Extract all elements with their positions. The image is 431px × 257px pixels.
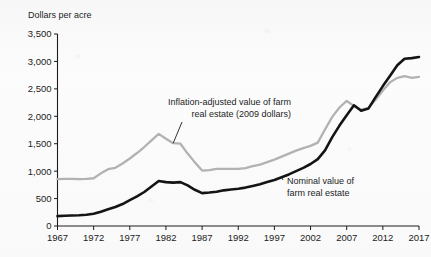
x-axis-ticks	[58, 226, 420, 230]
y-tick-label: 2,500	[28, 83, 52, 94]
x-tick-label: 2017	[408, 232, 429, 243]
annotation-nominal-line1: Nominal value of	[287, 176, 355, 186]
x-tick-label: 1992	[228, 232, 249, 243]
y-tick-label: 1,500	[28, 138, 52, 149]
x-tick-label: 1997	[264, 232, 285, 243]
x-tick-label: 1972	[83, 232, 104, 243]
y-tick-label: 1,000	[28, 166, 52, 177]
x-tick-label: 2007	[336, 232, 357, 243]
x-tick-label: 1967	[47, 232, 68, 243]
chart-canvas: Dollars per acre 05001,0001,5002,0002,50…	[0, 0, 431, 257]
series-line-inflation-adjusted	[58, 76, 420, 179]
series-line-nominal	[58, 57, 420, 216]
x-tick-label: 1987	[192, 232, 213, 243]
y-tick-label: 3,000	[28, 56, 52, 67]
x-axis-tick-labels: 1967197219771982198719921997200220072012…	[47, 232, 430, 243]
annotation-real-line1: Inflation-adjusted value of farm	[168, 97, 291, 107]
y-tick-label: 500	[36, 193, 52, 204]
x-tick-label: 1977	[119, 232, 140, 243]
y-axis-title: Dollars per acre	[28, 10, 92, 20]
y-axis-tick-labels: 05001,0001,5002,0002,5003,0003,500	[28, 28, 52, 231]
x-tick-label: 2002	[300, 232, 321, 243]
annotation-leader-line-real	[173, 122, 182, 143]
annotation-nominal-line2: farm real estate	[287, 188, 350, 198]
y-tick-label: 2,000	[28, 111, 52, 122]
farm-real-estate-line-chart: Dollars per acre 05001,0001,5002,0002,50…	[0, 0, 431, 257]
y-tick-label: 0	[46, 220, 51, 231]
x-tick-label: 1982	[155, 232, 176, 243]
y-tick-label: 3,500	[28, 28, 52, 39]
annotation-real-line2: real estate (2009 dollars)	[191, 109, 291, 119]
x-tick-label: 2012	[372, 232, 393, 243]
